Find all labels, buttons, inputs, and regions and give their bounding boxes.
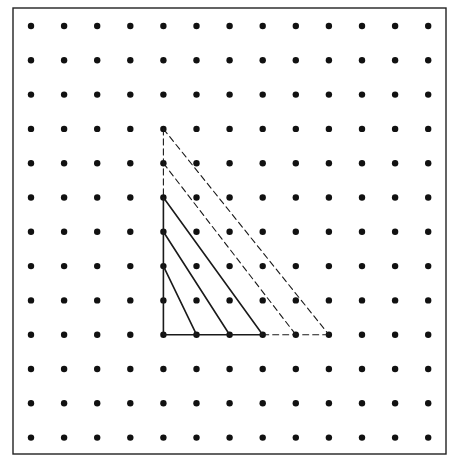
grid-dot [326, 400, 332, 406]
grid-dot [127, 332, 133, 338]
grid-dot [392, 263, 398, 269]
grid-dot [28, 297, 34, 303]
grid-dot [193, 229, 199, 235]
grid-dot [392, 23, 398, 29]
grid-dot [326, 434, 332, 440]
grid-dot [226, 160, 232, 166]
grid-dot [226, 434, 232, 440]
grid-dot [326, 229, 332, 235]
grid-dot [226, 23, 232, 29]
grid-dot [127, 366, 133, 372]
grid-dot [260, 57, 266, 63]
grid-dot [94, 332, 100, 338]
hypotenuse-2 [163, 232, 229, 335]
hypotenuse-3 [163, 198, 262, 335]
grid-dot [28, 263, 34, 269]
grid-dot [260, 297, 266, 303]
grid-dot [359, 194, 365, 200]
grid-dot [226, 229, 232, 235]
dot-grid-figure [0, 0, 458, 461]
grid-dot [392, 160, 398, 166]
grid-dot [226, 400, 232, 406]
grid-dot [392, 297, 398, 303]
grid-dot [260, 194, 266, 200]
grid-dot [260, 400, 266, 406]
grid-dot [326, 126, 332, 132]
grid-dot [94, 297, 100, 303]
grid-dot [160, 57, 166, 63]
grid-dot [28, 332, 34, 338]
grid-dot [94, 229, 100, 235]
grid-dot [94, 263, 100, 269]
grid-dot [260, 366, 266, 372]
grid-dot [127, 160, 133, 166]
grid-dot [127, 229, 133, 235]
similar-triangles [163, 129, 329, 335]
grid-dot [293, 194, 299, 200]
grid-dot [28, 126, 34, 132]
grid-dot [193, 366, 199, 372]
grid-dot [260, 229, 266, 235]
grid-dot [61, 23, 67, 29]
grid-dot [293, 366, 299, 372]
grid-dot [61, 229, 67, 235]
grid-dots [28, 23, 432, 441]
grid-dot [260, 91, 266, 97]
grid-dot [425, 229, 431, 235]
grid-dot [193, 126, 199, 132]
grid-dot [94, 91, 100, 97]
grid-dot [226, 91, 232, 97]
grid-dot [94, 366, 100, 372]
grid-dot [425, 57, 431, 63]
grid-dot [127, 297, 133, 303]
grid-dot [392, 229, 398, 235]
grid-dot [127, 434, 133, 440]
grid-dot [61, 194, 67, 200]
grid-dot [359, 229, 365, 235]
grid-dot [127, 400, 133, 406]
grid-dot [61, 434, 67, 440]
grid-dot [61, 160, 67, 166]
grid-dot [94, 194, 100, 200]
grid-dot [359, 263, 365, 269]
grid-dot [260, 263, 266, 269]
grid-dot [193, 194, 199, 200]
grid-dot [293, 91, 299, 97]
grid-dot [359, 297, 365, 303]
grid-dot [326, 297, 332, 303]
grid-dot [392, 194, 398, 200]
grid-dot [425, 91, 431, 97]
grid-dot [127, 57, 133, 63]
grid-dot [61, 126, 67, 132]
grid-dot [28, 366, 34, 372]
grid-dot [326, 366, 332, 372]
grid-dot [193, 57, 199, 63]
grid-dot [293, 126, 299, 132]
grid-dot [293, 57, 299, 63]
grid-dot [193, 91, 199, 97]
grid-dot [127, 23, 133, 29]
grid-dot [425, 366, 431, 372]
grid-dot [293, 263, 299, 269]
grid-dot [61, 263, 67, 269]
grid-dot [359, 400, 365, 406]
grid-dot [260, 434, 266, 440]
grid-dot [61, 400, 67, 406]
grid-dot [160, 23, 166, 29]
grid-dot [425, 400, 431, 406]
grid-dot [293, 297, 299, 303]
grid-dot [28, 91, 34, 97]
grid-dot [425, 297, 431, 303]
grid-dot [226, 366, 232, 372]
grid-dot [94, 400, 100, 406]
grid-dot [226, 57, 232, 63]
grid-dot [61, 91, 67, 97]
grid-dot [359, 126, 365, 132]
grid-dot [293, 229, 299, 235]
grid-dot [193, 400, 199, 406]
grid-dot [226, 126, 232, 132]
grid-dot [61, 366, 67, 372]
grid-dot [94, 57, 100, 63]
grid-dot [94, 160, 100, 166]
grid-dot [28, 229, 34, 235]
